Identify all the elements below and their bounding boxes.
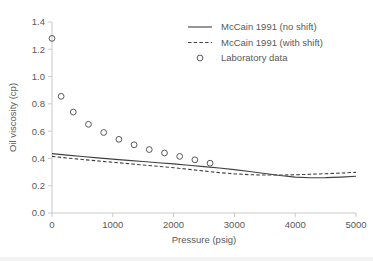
data-point-marker <box>116 136 122 142</box>
legend-item-label: Laboratory data <box>221 52 288 63</box>
chart-legend: McCain 1991 (no shift)McCain 1991 (with … <box>188 21 323 63</box>
bottom-edge-band <box>0 257 373 261</box>
y-axis-tick-label: 0.8 <box>32 98 45 109</box>
data-point-marker <box>207 160 213 166</box>
x-axis-tick-label: 2000 <box>163 219 184 230</box>
data-point-marker <box>192 157 198 163</box>
y-axis-tick-label: 0.4 <box>32 153 45 164</box>
y-axis-title: Oil viscosity (cp) <box>7 83 18 152</box>
y-axis-tick-label: 0.2 <box>32 180 45 191</box>
legend-item-label: McCain 1991 (no shift) <box>221 21 317 32</box>
axes-group: 0.00.20.40.60.81.01.21.40100020003000400… <box>7 16 367 245</box>
x-axis-title: Pressure (psig) <box>172 234 236 245</box>
x-axis-tick-label: 3000 <box>224 219 245 230</box>
data-point-marker <box>70 109 76 115</box>
series-mccain-with-shift <box>52 156 356 175</box>
y-axis-tick-label: 1.0 <box>32 71 45 82</box>
y-axis-tick-label: 0.0 <box>32 207 45 218</box>
data-point-marker <box>101 130 107 136</box>
legend-item[interactable]: McCain 1991 (with shift) <box>188 37 323 48</box>
data-point-marker <box>177 153 183 159</box>
oil-viscosity-chart: 0.00.20.40.60.81.01.21.40100020003000400… <box>0 0 373 261</box>
data-point-marker <box>86 121 92 127</box>
y-axis-tick-label: 1.2 <box>32 44 45 55</box>
data-point-marker <box>146 147 152 153</box>
data-point-marker <box>162 150 168 156</box>
legend-item-label: McCain 1991 (with shift) <box>221 37 323 48</box>
y-axis-tick-label: 0.6 <box>32 126 45 137</box>
x-axis-tick-label: 5000 <box>345 219 366 230</box>
series-laboratory-data <box>49 35 213 166</box>
legend-item[interactable]: McCain 1991 (no shift) <box>188 21 317 32</box>
y-axis-tick-label: 1.4 <box>32 16 45 27</box>
x-axis-tick-label: 1000 <box>102 219 123 230</box>
x-axis-tick-label: 0 <box>49 219 54 230</box>
chart-container: 0.00.20.40.60.81.01.21.40100020003000400… <box>0 0 373 261</box>
x-axis-tick-label: 4000 <box>285 219 306 230</box>
legend-open-circle-icon <box>197 55 203 61</box>
data-point-marker <box>58 93 64 99</box>
data-point-marker <box>131 142 137 148</box>
legend-item[interactable]: Laboratory data <box>197 52 288 63</box>
